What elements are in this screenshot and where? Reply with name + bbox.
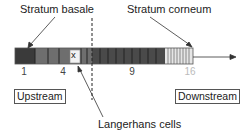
- granular-segment: [92, 48, 165, 64]
- position-label-1: 1: [21, 66, 27, 77]
- position-label-4: 4: [60, 66, 66, 77]
- upstream-label: Upstream: [14, 89, 66, 104]
- langerhans-cell-marker: x: [71, 49, 76, 60]
- position-label-16: 16: [184, 66, 195, 77]
- stratum-basale-label: Stratum basale: [20, 3, 94, 15]
- stratum-corneum-label: Stratum corneum: [127, 3, 211, 15]
- diagram-canvas: [0, 0, 249, 137]
- stratum-basale-segment: [15, 48, 35, 64]
- langerhans-cells-label: Langerhans cells: [98, 118, 181, 130]
- downstream-label: Downstream: [175, 89, 240, 104]
- position-label-9: 9: [129, 66, 135, 77]
- spinous-segment: [35, 48, 92, 64]
